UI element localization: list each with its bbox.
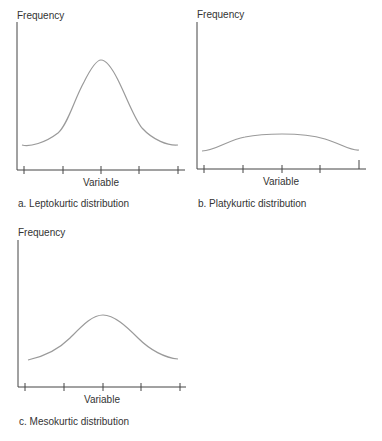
diagram-canvas: [0, 0, 382, 441]
panel-a-leptokurtic: [17, 22, 185, 174]
x-axis-label-a: Variable: [83, 177, 119, 188]
caption-a: a. Leptokurtic distribution: [18, 198, 129, 209]
y-axis-label-a: Frequency: [17, 10, 64, 21]
caption-b: b. Platykurtic distribution: [198, 198, 306, 209]
mesokurtic-curve: [28, 315, 178, 360]
leptokurtic-curve: [22, 60, 178, 146]
caption-c: c. Mesokurtic distribution: [19, 416, 129, 427]
platykurtic-curve: [202, 134, 359, 151]
x-axis-label-b: Variable: [263, 176, 299, 187]
x-axis-ticks: [204, 160, 359, 173]
y-axis-label-c: Frequency: [18, 227, 65, 238]
panel-b-platykurtic: [197, 22, 366, 173]
panel-c-mesokurtic: [18, 240, 186, 391]
y-axis-label-b: Frequency: [197, 9, 244, 20]
x-axis-label-c: Variable: [84, 394, 120, 405]
